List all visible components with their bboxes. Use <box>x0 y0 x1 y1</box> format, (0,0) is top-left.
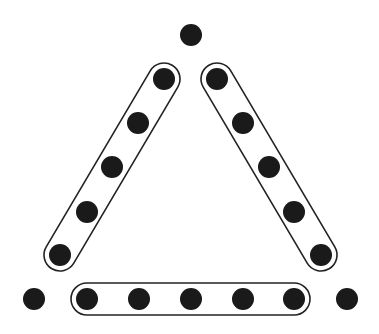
dot-bottom-side <box>76 288 98 310</box>
dot-right-side <box>206 68 228 90</box>
dot-bottom-side <box>232 288 254 310</box>
dot-left-side <box>127 112 149 134</box>
dot-triangle-diagram <box>0 0 379 334</box>
dots <box>23 24 358 310</box>
dot-bottom-side <box>283 288 305 310</box>
dot-right-side <box>232 112 254 134</box>
corner-dot-top <box>180 24 202 46</box>
dot-bottom-side <box>128 288 150 310</box>
dot-right-side <box>258 156 280 178</box>
dot-left-side <box>101 156 123 178</box>
dot-left-side <box>49 244 71 266</box>
dot-right-side <box>310 244 332 266</box>
group-outlines <box>38 57 343 315</box>
dot-left-side <box>153 68 175 90</box>
corner-dot-bottom-left <box>23 288 45 310</box>
corner-dot-bottom-right <box>336 288 358 310</box>
dot-left-side <box>76 201 98 223</box>
dot-bottom-side <box>180 288 202 310</box>
dot-right-side <box>283 201 305 223</box>
